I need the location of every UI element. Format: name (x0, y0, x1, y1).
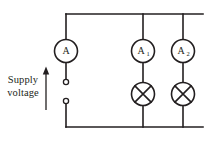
supply-voltage-label: Supply voltage (2, 74, 44, 99)
ammeter-branch2-subscript: 2 (186, 50, 189, 57)
terminal-bottom (63, 98, 68, 103)
ammeter-branch1-label: A (137, 45, 145, 56)
ammeter-branch2-label: A (177, 45, 185, 56)
supply-voltage-label-line1: Supply (2, 74, 44, 87)
circuit-diagram: A A 1 A 2 Supply voltage (0, 0, 205, 141)
supply-voltage-label-line2: voltage (2, 87, 44, 100)
ammeter-main-label: A (62, 45, 70, 56)
ammeter-branch1-subscript: 1 (146, 50, 149, 57)
circuit-schematic: A A 1 A 2 (0, 0, 205, 141)
terminal-top (63, 79, 68, 84)
